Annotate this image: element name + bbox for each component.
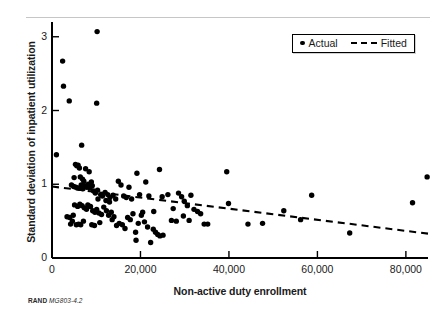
x-tick-label: 60,000 <box>282 264 352 275</box>
y-tick-label: 1 <box>27 178 47 189</box>
legend-entry-fitted: Fitted <box>351 37 407 49</box>
dot-marker-icon <box>300 41 305 46</box>
y-tick-label: 2 <box>27 105 47 116</box>
legend-label-fitted: Fitted <box>381 37 407 49</box>
y-tick-label: 0 <box>27 252 47 263</box>
legend-entry-actual: Actual <box>300 37 338 49</box>
source-note: RAND MG803-4.2 <box>28 297 83 304</box>
x-tick-label: 80,000 <box>371 264 441 275</box>
x-tick-label: 20,000 <box>105 264 175 275</box>
dashed-line-icon <box>351 42 377 44</box>
source-note-brand: RAND <box>28 297 47 304</box>
figure-container: Standard deviation of inpatient utilizat… <box>0 0 446 319</box>
actual-data-points <box>54 29 430 245</box>
y-tick-label: 3 <box>27 31 47 42</box>
x-tick-label: 0 <box>17 264 87 275</box>
chart-legend: Actual Fitted <box>292 34 415 53</box>
legend-label-actual: Actual <box>309 37 338 49</box>
x-tick-label: 40,000 <box>194 264 264 275</box>
source-note-code: MG803-4.2 <box>49 297 82 304</box>
plot-axes <box>52 22 428 258</box>
